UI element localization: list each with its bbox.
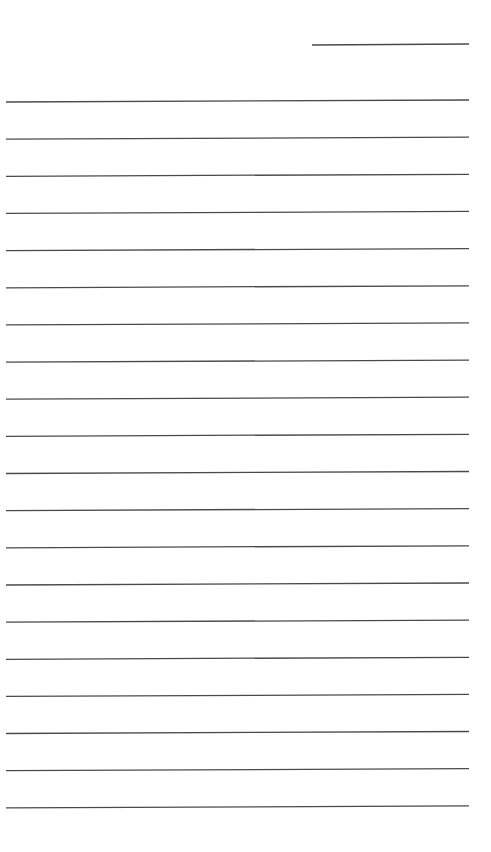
lined-paper-page [0,0,491,852]
ruled-line [6,694,469,696]
ruled-line [6,397,469,399]
ruled-lines [0,0,491,852]
ruled-line [6,472,469,474]
ruled-line [6,620,469,622]
ruled-line [6,137,469,139]
ruled-line [6,546,469,548]
ruled-line [6,286,469,288]
ruled-line [6,249,469,251]
ruled-line [6,211,469,213]
date-line [312,44,469,45]
ruled-line [6,769,469,771]
ruled-line [6,434,469,436]
ruled-line [6,657,469,659]
ruled-line [6,806,469,808]
ruled-line [6,100,469,102]
ruled-line [6,732,469,734]
ruled-line [6,509,469,511]
ruled-line [6,583,469,585]
ruled-line [6,174,469,176]
ruled-line [6,360,469,362]
ruled-line [6,323,469,325]
